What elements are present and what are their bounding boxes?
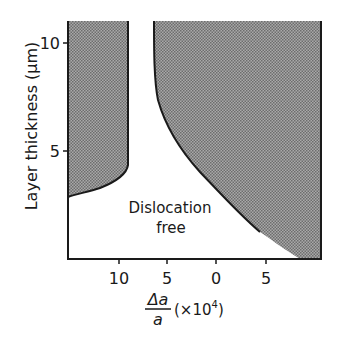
left-dislocated-region xyxy=(68,21,128,197)
annotation-free: free xyxy=(156,219,186,237)
x-label-multiplier: (×10 xyxy=(174,301,212,319)
x-label-denominator: a xyxy=(153,310,163,329)
chart-svg: 10 5 10 5 0 5 Layer thickness (μm) Dislo… xyxy=(0,0,341,342)
y-tick-label-10: 10 xyxy=(40,34,60,53)
x-label-numerator: Δa xyxy=(146,290,169,309)
x-tick-label-5-left: 5 xyxy=(162,269,172,288)
annotation-dislocation: Dislocation xyxy=(128,199,211,217)
x-tick-label-0: 0 xyxy=(211,269,221,288)
x-tick-label-5-right: 5 xyxy=(261,269,271,288)
y-tick-label-5: 5 xyxy=(50,142,60,161)
x-label-close-paren: ) xyxy=(218,301,224,319)
y-axis-label: Layer thickness (μm) xyxy=(22,42,41,211)
chart: 10 5 10 5 0 5 Layer thickness (μm) Dislo… xyxy=(0,0,341,342)
x-tick-label-10: 10 xyxy=(109,269,129,288)
x-label-suffix: (×104) xyxy=(174,299,224,319)
